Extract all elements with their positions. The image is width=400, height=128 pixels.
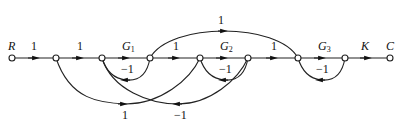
node-4	[197, 55, 203, 61]
gain-g3: G3	[318, 40, 331, 54]
node-6	[295, 55, 301, 61]
gain-g2: G2	[220, 40, 233, 54]
node-7	[342, 55, 348, 61]
gain-r-n1: 1	[31, 40, 37, 52]
gain-top-arc: 1	[218, 14, 224, 26]
gain-n3-n4: 1	[173, 40, 179, 52]
loop-gain-2: −1	[219, 63, 232, 75]
node-3	[147, 55, 153, 61]
gain-g1: G1	[122, 40, 135, 54]
gain-k: K	[361, 40, 369, 52]
signal-flow-graph: R 1 1 G1 1 G2 1 G3 K C −1 −1 −1 1 1 −1	[0, 0, 400, 128]
gain-n1-n2: 1	[77, 40, 83, 52]
gain-bottom-arc-1: 1	[122, 109, 128, 121]
label-c: C	[386, 40, 394, 52]
label-r: R	[8, 40, 15, 52]
loop-gain-3: −1	[316, 63, 329, 75]
node-2	[99, 55, 105, 61]
node-c	[387, 55, 393, 61]
gain-n5-n6: 1	[271, 40, 277, 52]
gain-bottom-arc-2: −1	[174, 109, 187, 121]
node-5	[245, 55, 251, 61]
graph-edges	[0, 0, 400, 128]
node-1	[53, 55, 59, 61]
node-r	[9, 55, 15, 61]
loop-gain-1: −1	[121, 63, 134, 75]
